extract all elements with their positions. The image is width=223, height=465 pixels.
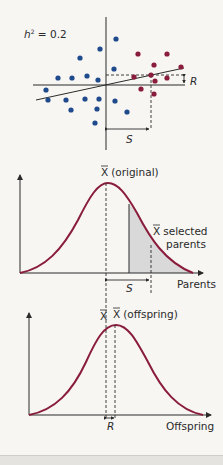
heritability-label: h2 = 0.2 [24, 28, 67, 40]
offspring-mean-label: X(offspring) [113, 308, 178, 320]
data-point [92, 120, 97, 125]
data-point [111, 66, 116, 71]
data-point [94, 106, 99, 111]
original-mean-symbol: X [100, 310, 107, 322]
offspring-distribution-panel: X X(offspring) R Offspring [29, 300, 214, 432]
offspring-axis-label: Offspring [166, 420, 214, 432]
response-label: R [190, 75, 197, 87]
data-point [138, 86, 143, 91]
regression-line [36, 68, 184, 100]
data-point [151, 62, 156, 67]
data-point [131, 74, 136, 79]
selection-differential-label: S [126, 133, 133, 145]
data-point [69, 75, 74, 80]
bottom-border [0, 455, 223, 465]
data-point [148, 72, 153, 77]
data-point [96, 96, 101, 101]
selected-parents-label: Xselected [153, 225, 208, 237]
data-point [82, 96, 87, 101]
offspring-r-label: R [107, 420, 114, 432]
parents-distribution-panel: X(original) Xselected parents S Parents [20, 166, 216, 300]
data-point [68, 107, 73, 112]
data-point [43, 87, 48, 92]
offspring-distribution-curve [29, 325, 203, 415]
selected-parents-label-line2: parents [166, 238, 206, 250]
data-point [55, 75, 60, 80]
data-point [135, 51, 140, 56]
data-point [113, 36, 118, 41]
data-point [124, 109, 129, 114]
data-point [152, 78, 157, 83]
data-point [151, 91, 156, 96]
data-point [63, 97, 68, 102]
data-point [164, 75, 169, 80]
parents-s-label: S [126, 282, 133, 294]
unselected-individual-dots [43, 36, 129, 125]
data-point [84, 73, 89, 78]
data-point [77, 55, 82, 60]
data-point [112, 98, 117, 103]
data-point [97, 46, 102, 51]
scatter-panel: h2 = 0.2 R S [24, 17, 197, 150]
data-point [45, 97, 50, 102]
data-point [95, 77, 100, 82]
data-point [164, 51, 169, 56]
data-point [178, 64, 183, 69]
original-mean-label: X(original) [101, 166, 159, 178]
parents-axis-label: Parents [177, 278, 216, 290]
